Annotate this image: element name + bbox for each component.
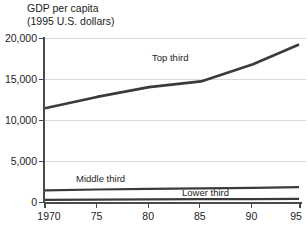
series-label-top-third: Top third <box>152 52 188 63</box>
series-middle-third <box>45 187 299 190</box>
y-tick-labels: 20,000 15,000 10,000 5,000 0 <box>5 32 37 208</box>
x-tick-label-85: 85 <box>194 210 206 222</box>
series-lower-third <box>45 199 299 200</box>
x-axis <box>44 203 302 208</box>
line-lower-third <box>45 199 299 200</box>
x-tick-label-90: 90 <box>246 210 258 222</box>
chart-container: GDP per capita (1995 U.S. dollars) 20,00… <box>0 0 308 230</box>
y-tick-label-0: 0 <box>31 196 37 208</box>
line-middle-third <box>45 187 299 190</box>
x-tick-label-75: 75 <box>91 210 103 222</box>
y-tick-label-5000: 5,000 <box>11 155 37 167</box>
series-label-middle-third: Middle third <box>76 173 125 184</box>
y-tick-label-15000: 15,000 <box>5 73 37 85</box>
series-inline-labels: Top third Middle third Lower third <box>76 52 229 198</box>
x-tick-label-1970: 1970 <box>37 210 61 222</box>
y-axis <box>39 37 44 203</box>
series-label-lower-third: Lower third <box>182 187 229 198</box>
x-tick-label-95: 95 <box>290 210 302 222</box>
x-tick-labels: 1970 75 80 85 90 95 <box>37 210 302 222</box>
y-tick-label-20000: 20,000 <box>5 32 37 44</box>
y-tick-label-10000: 10,000 <box>5 114 37 126</box>
x-tick-label-80: 80 <box>142 210 154 222</box>
chart-plot: 20,000 15,000 10,000 5,000 0 1970 75 <box>0 0 308 230</box>
